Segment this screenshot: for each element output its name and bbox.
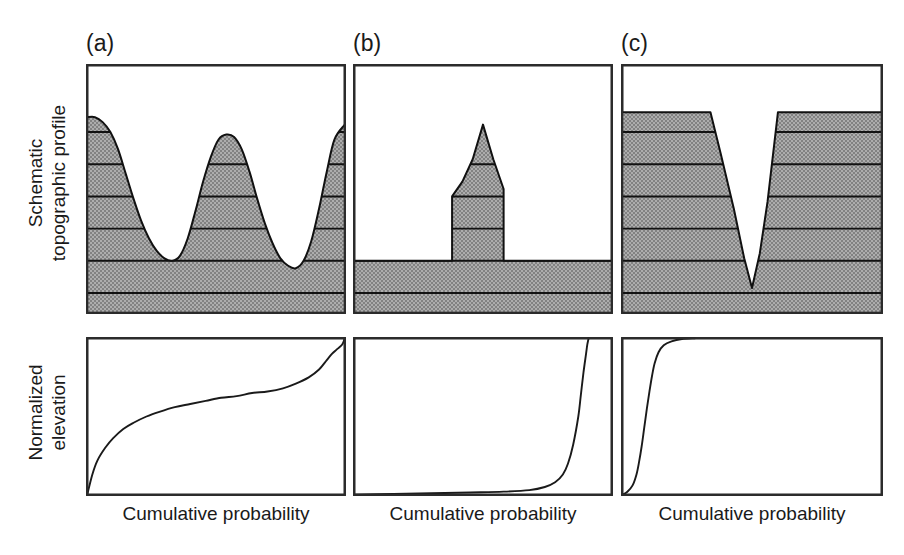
hypsometric-curve-c (621, 337, 883, 496)
panel-letter-b: (b) (353, 30, 381, 57)
figure-root: Schematic topographic profile Normalized… (0, 0, 904, 555)
topographic-profile-b (353, 64, 613, 314)
xlabel-c: Cumulative probability (621, 503, 883, 525)
topographic-profile-a (86, 64, 346, 314)
row-label-line2: elevation (48, 374, 69, 450)
row-label-line1: Schematic (25, 139, 46, 228)
xlabel-a: Cumulative probability (86, 503, 346, 525)
panel-letter-a: (a) (86, 30, 114, 57)
row-label-topographic-profile: Schematic topographic profile (24, 53, 70, 313)
panel-letter-c: (c) (621, 30, 648, 57)
hypsometric-curve-a (86, 337, 346, 496)
topographic-profile-c (621, 64, 883, 314)
hypsometric-curve-b (353, 337, 613, 496)
row-label-line1: Normalized (25, 364, 46, 460)
row-label-normalized-elevation: Normalized elevation (24, 330, 70, 495)
xlabel-b: Cumulative probability (353, 503, 613, 525)
row-label-line2: topographic profile (48, 105, 69, 261)
